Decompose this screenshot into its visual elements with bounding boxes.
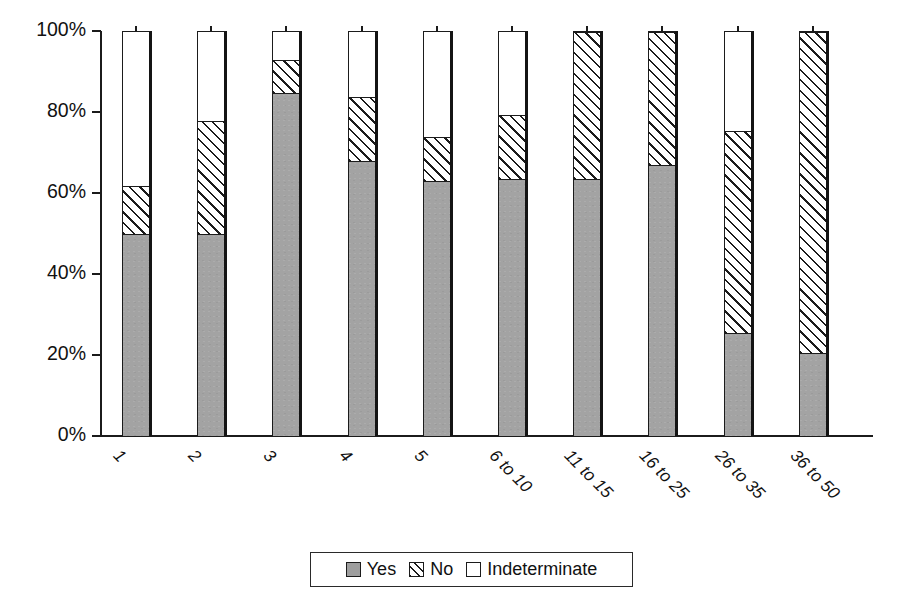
bar-segment-no — [123, 186, 149, 234]
bar-top-tick — [586, 26, 588, 32]
legend-label: No — [430, 559, 453, 580]
legend-item-indeterminate: Indeterminate — [466, 559, 597, 580]
hatched-swatch — [409, 562, 424, 577]
y-axis-tick-mark — [92, 273, 101, 275]
y-axis-tick-mark — [92, 435, 101, 437]
y-axis-tick-label: 60% — [0, 180, 86, 203]
empty-swatch — [466, 562, 481, 577]
bar-segment-yes — [725, 333, 751, 436]
bar-segment-indeterminate — [273, 32, 299, 60]
bar-segment-yes — [273, 93, 299, 436]
bar-segment-yes — [574, 179, 600, 436]
bar-segment-yes — [198, 234, 224, 436]
bar-segment-indeterminate — [198, 32, 224, 121]
bar-segment-yes — [424, 181, 450, 436]
bar-segment-indeterminate — [725, 32, 751, 131]
y-axis-tick-mark — [92, 30, 101, 32]
bar-segment-indeterminate — [349, 32, 375, 97]
x-axis-label: 2 — [184, 446, 205, 467]
bar-top-tick — [511, 26, 513, 32]
bar-top-tick — [812, 26, 814, 32]
bar-top-tick — [361, 26, 363, 32]
bar-top-tick — [135, 26, 137, 32]
bar-segment-indeterminate — [424, 32, 450, 137]
bar-segment-yes — [123, 234, 149, 436]
y-axis-tick-label: 40% — [0, 261, 86, 284]
bar-column — [799, 31, 829, 436]
bar-column — [648, 31, 678, 436]
x-axis-label: 3 — [259, 446, 280, 467]
bar-segment-yes — [649, 165, 675, 436]
legend-item-yes: Yes — [346, 559, 396, 580]
bar-segment-no — [499, 115, 525, 180]
bar-segment-yes — [800, 353, 826, 436]
bar-segment-yes — [499, 179, 525, 436]
x-axis-label: 11 to 15 — [560, 446, 617, 503]
legend-item-no: No — [409, 559, 453, 580]
x-axis-label: 36 to 50 — [786, 446, 844, 504]
bar-top-tick — [285, 26, 287, 32]
bar-column — [498, 31, 528, 436]
x-axis-label: 4 — [334, 446, 355, 467]
bar-top-tick — [436, 26, 438, 32]
y-axis-tick-label: 20% — [0, 342, 86, 365]
bar-segment-no — [649, 32, 675, 165]
bar-segment-no — [574, 32, 600, 179]
bar-segment-no — [800, 32, 826, 353]
bar-column — [573, 31, 603, 436]
x-axis-label: 26 to 35 — [710, 446, 768, 504]
bar-column — [724, 31, 754, 436]
bar-segment-no — [273, 60, 299, 92]
bar-segment-no — [349, 97, 375, 162]
x-axis-label: 1 — [109, 446, 130, 467]
x-axis-label: 5 — [410, 446, 431, 467]
legend-label: Indeterminate — [487, 559, 597, 580]
bar-column — [423, 31, 453, 436]
bar-column — [348, 31, 378, 436]
bar-segment-yes — [349, 161, 375, 436]
chart-legend: YesNoIndeterminate — [310, 552, 633, 587]
bar-top-tick — [661, 26, 663, 32]
stacked-bar-chart: 100%80%60%40%20%0% 123456 to 1011 to 151… — [0, 0, 900, 603]
bar-segment-no — [725, 131, 751, 333]
bar-segment-indeterminate — [499, 32, 525, 115]
solid-gray-swatch — [346, 562, 361, 577]
bar-top-tick — [210, 26, 212, 32]
bar-top-tick — [737, 26, 739, 32]
bar-column — [122, 31, 152, 436]
y-axis-tick-mark — [92, 192, 101, 194]
bar-column — [197, 31, 227, 436]
y-axis-tick-label: 100% — [0, 18, 86, 41]
bar-segment-no — [424, 137, 450, 181]
bar-segment-no — [198, 121, 224, 234]
legend-label: Yes — [367, 559, 396, 580]
x-axis-label: 6 to 10 — [485, 446, 536, 497]
bar-segment-indeterminate — [123, 32, 149, 186]
y-axis-tick-label: 0% — [0, 423, 86, 446]
y-axis-tick-mark — [92, 111, 101, 113]
y-axis-tick-label: 80% — [0, 99, 86, 122]
x-axis-label: 16 to 25 — [635, 446, 693, 504]
y-axis-line — [100, 31, 102, 436]
bar-column — [272, 31, 302, 436]
y-axis-tick-mark — [92, 354, 101, 356]
